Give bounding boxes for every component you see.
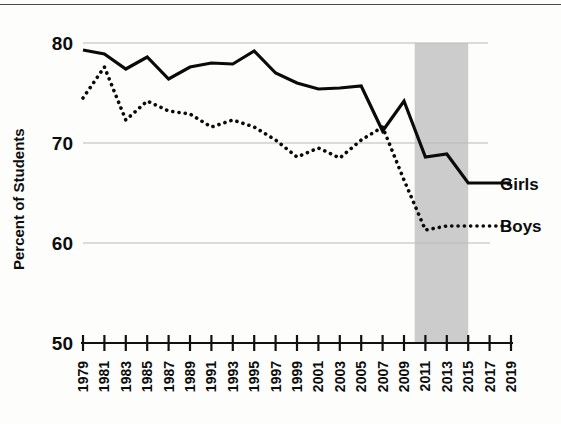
y-tick-labels: 80706050 <box>52 33 73 354</box>
x-tick-label: 2013 <box>439 361 455 392</box>
series-label-girls: Girls <box>500 175 539 194</box>
y-tick-label: 70 <box>52 133 73 154</box>
x-tick-label: 2017 <box>482 361 498 392</box>
y-tick-label: 50 <box>52 333 73 354</box>
x-tick-label: 2003 <box>332 361 348 392</box>
x-tick-label: 2007 <box>375 361 391 392</box>
x-tick-labels: 1979198119831985198719891991199319951997… <box>75 361 519 392</box>
x-tick-label: 1985 <box>139 361 155 392</box>
chart-page: 80706050 1979198119831985198719891991199… <box>0 0 561 424</box>
y-tick-label: 60 <box>52 233 73 254</box>
series-label-boys: Boys <box>500 217 542 236</box>
x-tick-label: 2015 <box>460 361 476 392</box>
x-tick-label: 2011 <box>417 361 433 392</box>
x-tick-label: 2019 <box>503 361 519 392</box>
x-tick-label: 1995 <box>246 361 262 392</box>
x-tick-label: 1983 <box>118 361 134 392</box>
shaded-band-rect <box>415 43 469 343</box>
shaded-period-band <box>415 43 469 343</box>
y-axis-title: Percent of Students <box>10 128 27 270</box>
x-tick-label: 1997 <box>268 361 284 392</box>
x-tick-label: 1993 <box>225 361 241 392</box>
y-tick-label: 80 <box>52 33 73 54</box>
x-tick-label: 1989 <box>182 361 198 392</box>
x-tick-label: 2009 <box>396 361 412 392</box>
x-tick-label: 1987 <box>161 361 177 392</box>
x-tick-label: 2005 <box>353 361 369 392</box>
line-chart: 80706050 1979198119831985198719891991199… <box>0 0 561 424</box>
x-tick-label: 1979 <box>75 361 91 392</box>
x-tick-label: 2001 <box>310 361 326 392</box>
x-tick-label: 1991 <box>203 361 219 392</box>
x-tick-label: 1981 <box>96 361 112 392</box>
x-tick-label: 1999 <box>289 361 305 392</box>
